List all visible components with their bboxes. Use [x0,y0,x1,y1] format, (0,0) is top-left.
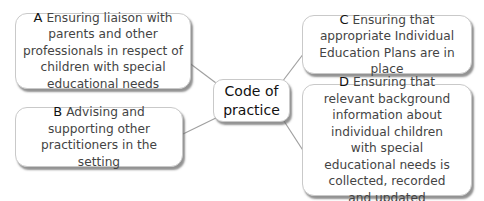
node-d-letter: D [339,74,349,89]
center-node: Code of practice [213,79,290,122]
node-d-label: Ensuring that relevant background inform… [324,75,450,201]
node-a-label: Ensuring liaison with parents and other … [23,11,183,91]
node-b-letter: B [53,104,62,119]
connector-b [183,116,220,134]
node-a-letter: A [33,10,42,25]
node-a-text: AEnsuring liaison with parents and other… [20,10,186,93]
connector-c [282,53,304,82]
center-line-1: Code of [223,82,280,101]
node-c-text: CEnsuring that appropriate Individual Ed… [315,12,459,78]
node-c-letter: C [339,12,348,27]
connector-d [282,118,304,152]
node-c: CEnsuring that appropriate Individual Ed… [302,15,472,74]
node-a: AEnsuring liaison with parents and other… [15,13,191,89]
center-label: Code of practice [223,82,280,120]
center-line-2: practice [223,101,280,120]
node-d-text: DEnsuring that relevant background infor… [317,74,457,201]
node-d: DEnsuring that relevant background infor… [302,84,472,196]
node-b-text: BAdvising and supporting other practitio… [34,104,164,170]
node-b: BAdvising and supporting other practitio… [15,107,183,167]
